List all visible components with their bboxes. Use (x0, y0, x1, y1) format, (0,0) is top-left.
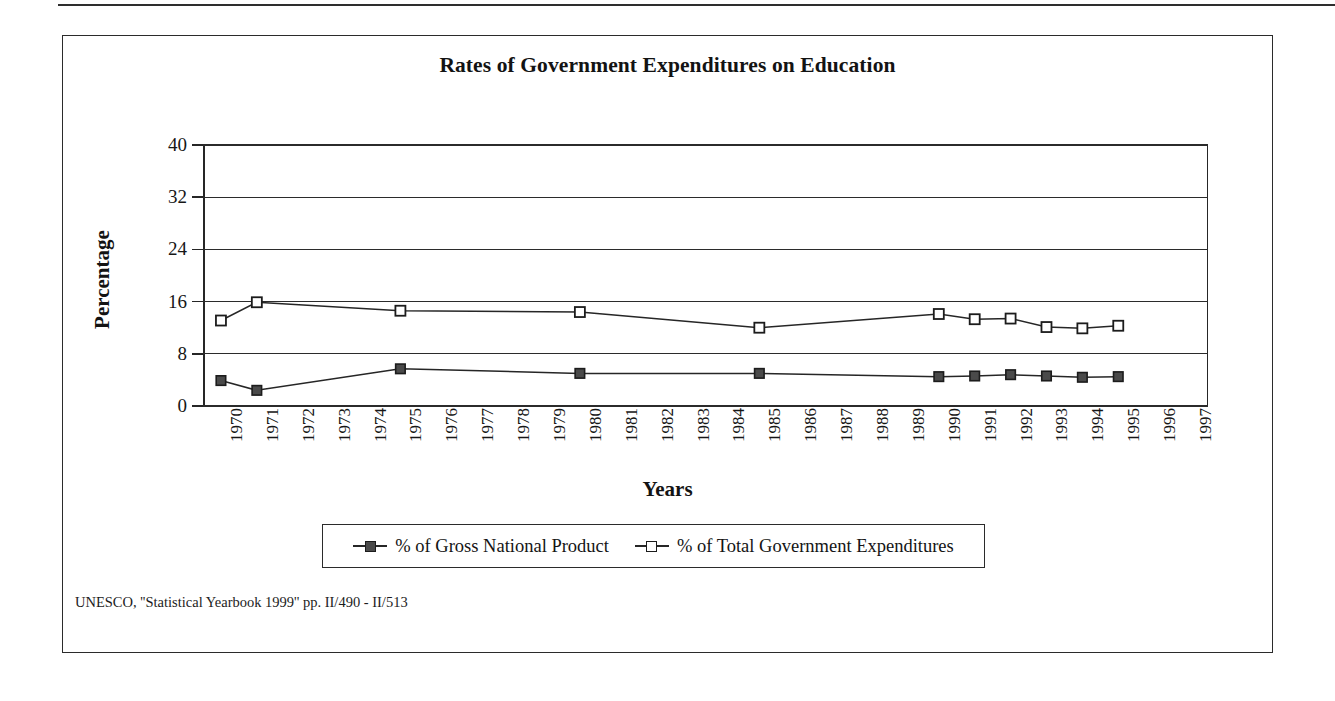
x-tick-label-1997: 1997 (1196, 408, 1216, 442)
legend-marker-open-square-icon (635, 539, 669, 553)
y-tick-24 (192, 249, 203, 251)
x-tick-label-1976: 1976 (442, 408, 462, 442)
legend-entry-1: % of Gross National Product (353, 536, 609, 557)
top-horizontal-rule (58, 4, 1335, 6)
x-tick-label-1983: 1983 (694, 408, 714, 442)
data-point-filled-square-1971 (252, 386, 262, 396)
gridline-16 (203, 301, 1208, 302)
y-tick-label-40: 40 (168, 134, 187, 156)
gridline-8 (203, 353, 1208, 354)
y-tick-label-0: 0 (178, 395, 188, 417)
x-tick-label-1985: 1985 (765, 408, 785, 442)
series-layer (203, 145, 503, 295)
figure-frame: Rates of Government Expenditures on Educ… (62, 35, 1273, 653)
legend-label: % of Total Government Expenditures (677, 536, 954, 557)
x-tick-label-1972: 1972 (299, 408, 319, 442)
x-tick-label-1971: 1971 (263, 408, 283, 442)
data-point-open-square-1980 (575, 307, 585, 317)
x-tick-label-1984: 1984 (729, 408, 749, 442)
legend-swatch-square-icon (646, 541, 657, 552)
x-tick-label-1977: 1977 (478, 408, 498, 442)
legend-marker-filled-square-icon (353, 539, 387, 553)
x-tick-label-1988: 1988 (873, 408, 893, 442)
source-note: UNESCO, ''Statistical Yearbook 1999'' pp… (75, 594, 408, 611)
x-tick-label-1981: 1981 (622, 408, 642, 442)
x-tick-label-1980: 1980 (586, 408, 606, 442)
x-tick-label-1975: 1975 (406, 408, 426, 442)
x-tick-label-1990: 1990 (945, 408, 965, 442)
chart-title: Rates of Government Expenditures on Educ… (63, 53, 1272, 78)
data-point-open-square-1990 (934, 309, 944, 319)
y-tick-8 (192, 353, 203, 355)
legend-entry-2: % of Total Government Expenditures (635, 536, 954, 557)
y-tick-32 (192, 196, 203, 198)
x-tick-label-1974: 1974 (371, 408, 391, 442)
data-point-filled-square-1975 (396, 364, 406, 374)
y-tick-16 (192, 301, 203, 303)
data-point-open-square-1971 (252, 297, 262, 307)
data-point-open-square-1995 (1113, 321, 1123, 331)
data-point-open-square-1975 (395, 306, 405, 316)
x-tick-label-1993: 1993 (1052, 408, 1072, 442)
x-axis-title: Years (63, 477, 1272, 502)
data-point-open-square-1985 (754, 323, 764, 333)
plot-area-wrapper: 0816243240 (203, 145, 1208, 406)
data-point-filled-square-1991 (970, 371, 980, 381)
data-point-filled-square-1995 (1114, 372, 1124, 382)
x-tick-label-1989: 1989 (909, 408, 929, 442)
data-point-filled-square-1993 (1042, 371, 1052, 381)
x-tick-label-1996: 1996 (1160, 408, 1180, 442)
y-tick-label-32: 32 (168, 186, 187, 208)
data-point-filled-square-1992 (1006, 370, 1016, 380)
y-axis-title: Percentage (90, 200, 115, 360)
data-point-filled-square-1994 (1078, 373, 1088, 383)
data-point-open-square-1994 (1077, 323, 1087, 333)
x-tick-label-1994: 1994 (1088, 408, 1108, 442)
x-tick-label-1978: 1978 (514, 408, 534, 442)
data-point-filled-square-1980 (575, 369, 585, 379)
x-tick-label-1970: 1970 (227, 408, 247, 442)
x-tick-label-1992: 1992 (1017, 408, 1037, 442)
y-tick-40 (192, 144, 203, 146)
gridline-0 (203, 405, 1208, 406)
y-tick-label-8: 8 (178, 343, 188, 365)
data-point-filled-square-1970 (216, 376, 226, 386)
y-tick-label-16: 16 (168, 291, 187, 313)
plot-right-border (1207, 145, 1208, 406)
data-point-open-square-1992 (1006, 314, 1016, 324)
x-tick-label-1987: 1987 (837, 408, 857, 442)
data-point-open-square-1993 (1041, 322, 1051, 332)
legend-label: % of Gross National Product (395, 536, 609, 557)
x-tick-label-1986: 1986 (801, 408, 821, 442)
chart-legend: % of Gross National Product% of Total Go… (322, 524, 985, 568)
x-tick-label-1995: 1995 (1124, 408, 1144, 442)
x-tick-label-1979: 1979 (550, 408, 570, 442)
x-tick-label-1991: 1991 (981, 408, 1001, 442)
data-point-open-square-1991 (970, 314, 980, 324)
y-tick-0 (192, 405, 203, 407)
legend-swatch-square-icon (365, 541, 376, 552)
data-point-open-square-1970 (216, 316, 226, 326)
data-point-filled-square-1985 (755, 369, 765, 379)
x-tick-label-1973: 1973 (335, 408, 355, 442)
data-point-filled-square-1990 (934, 372, 944, 382)
x-tick-label-1982: 1982 (658, 408, 678, 442)
y-tick-label-24: 24 (168, 238, 187, 260)
